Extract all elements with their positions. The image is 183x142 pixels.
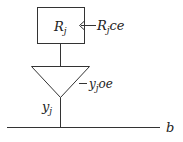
register-bus-diagram: Rj Rjce yjoe yj b <box>0 0 183 142</box>
register-label: Rj <box>53 19 67 36</box>
output-enable-label: yjoe <box>88 77 113 93</box>
output-label: yj <box>41 99 52 116</box>
clock-enable-label: Rjce <box>96 18 125 35</box>
bus-label: b <box>166 120 174 135</box>
tristate-buffer <box>32 67 90 98</box>
